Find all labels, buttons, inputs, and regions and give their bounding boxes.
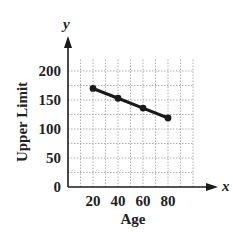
y-axis-label: Upper Limit: [14, 82, 30, 162]
y-variable-label: y: [61, 16, 70, 32]
data-point-marker: [90, 85, 97, 92]
x-variable-label: x: [221, 178, 230, 194]
axes: [64, 36, 218, 191]
data-point-marker: [140, 105, 147, 112]
data-point-marker: [115, 95, 122, 102]
x-tick-label: 60: [136, 193, 151, 209]
y-tick-label: 150: [39, 92, 62, 108]
y-tick-label: 0: [54, 179, 62, 195]
y-tick-label: 50: [46, 150, 61, 166]
x-tick-label: 20: [86, 193, 101, 209]
y-axis-arrow-icon: [64, 36, 72, 48]
grid: [68, 59, 193, 187]
data-point-marker: [165, 115, 172, 122]
line-chart: 20406080050100150200 Age Upper Limit x y: [0, 0, 233, 232]
y-tick-label: 100: [39, 121, 62, 137]
x-tick-label: 80: [161, 193, 176, 209]
y-tick-label: 200: [39, 63, 62, 79]
x-tick-label: 40: [111, 193, 126, 209]
x-axis-arrow-icon: [206, 183, 218, 191]
x-axis-label: Age: [121, 211, 146, 227]
